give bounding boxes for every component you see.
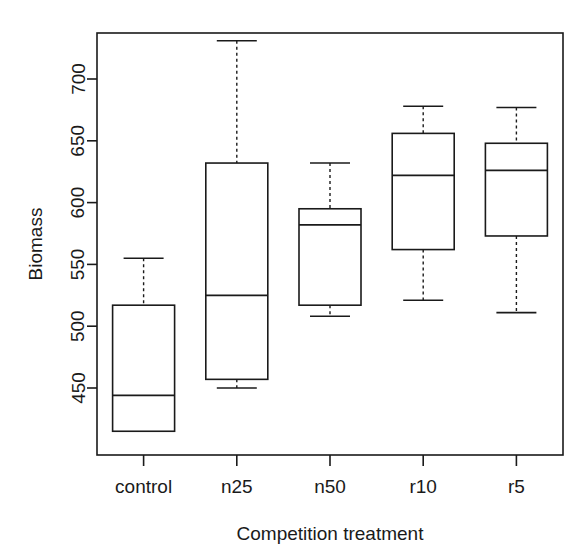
y-axis-title: Biomass (25, 208, 46, 281)
y-tick-label: 700 (68, 63, 89, 95)
x-axis-title: Competition treatment (237, 523, 425, 544)
y-tick-label: 500 (68, 310, 89, 342)
boxplot-control (113, 258, 175, 431)
x-tick-label-r10: r10 (409, 476, 436, 497)
boxplot-n25 (206, 41, 268, 388)
boxplot-n50 (299, 163, 361, 316)
y-axis: 450500550600650700 (68, 63, 98, 404)
x-tick-label-n50: n50 (314, 476, 346, 497)
y-tick-label: 450 (68, 372, 89, 404)
y-tick-label: 650 (68, 125, 89, 157)
y-tick-label: 550 (68, 249, 89, 281)
box-iqr (392, 133, 454, 249)
box-iqr (299, 209, 361, 305)
boxplot-r10 (392, 106, 454, 300)
plot-canvas: 450500550600650700 controln25n50r10r5 Bi… (0, 0, 588, 559)
box-iqr (485, 143, 547, 236)
box-iqr (113, 305, 175, 431)
x-tick-label-n25: n25 (221, 476, 253, 497)
box-iqr (206, 163, 268, 379)
x-axis: controln25n50r10r5 (115, 455, 525, 497)
x-tick-label-r5: r5 (508, 476, 525, 497)
boxplot-figure: 450500550600650700 controln25n50r10r5 Bi… (0, 0, 588, 559)
boxplot-r5 (485, 107, 547, 312)
x-tick-label-control: control (115, 476, 172, 497)
y-tick-label: 600 (68, 187, 89, 219)
box-series (113, 41, 548, 432)
